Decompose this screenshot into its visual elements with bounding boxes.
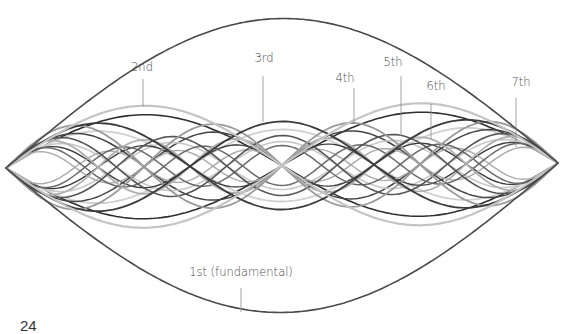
label-7th: 7th (511, 75, 530, 89)
label-2nd: 2nd (131, 60, 153, 74)
label-1st-fundamental: 1st (fundamental) (189, 265, 293, 279)
label-5th: 5th (383, 55, 402, 69)
page-number: 24 (20, 318, 37, 333)
label-3rd: 3rd (254, 51, 273, 65)
label-4th: 4th (335, 71, 354, 85)
label-6th: 6th (426, 79, 445, 93)
